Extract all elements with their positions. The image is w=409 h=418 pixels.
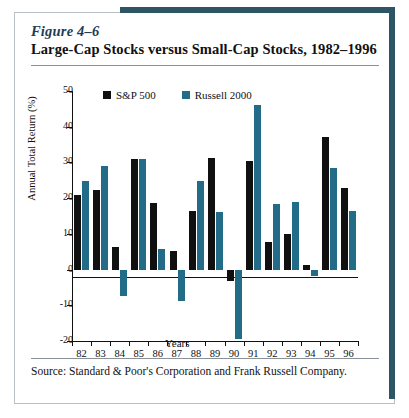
bar-s-p-500-88 xyxy=(189,211,196,270)
bar-s-p-500-95 xyxy=(322,137,329,269)
legend-item-sp500: S&P 500 xyxy=(103,89,156,101)
x-tick-mark xyxy=(110,341,111,346)
accent-bar-top xyxy=(120,7,395,13)
figure-card: Figure 4–6 Large-Cap Stocks versus Small… xyxy=(14,12,395,404)
bar-s-p-500-82 xyxy=(74,195,81,270)
bar-s-p-500-89 xyxy=(208,158,215,269)
x-tick-mark xyxy=(301,341,302,346)
x-tick-mark xyxy=(225,341,226,346)
bar-s-p-500-85 xyxy=(131,159,138,270)
bar-s-p-500-83 xyxy=(93,190,100,270)
bar-russell-2000-95 xyxy=(330,168,337,269)
bar-s-p-500-87 xyxy=(170,251,177,270)
y-tick-label: -10 xyxy=(47,298,73,309)
source-note: Source: Standard & Poor's Corporation an… xyxy=(31,365,347,377)
y-tick-label: 40 xyxy=(47,120,73,131)
accent-bar-right xyxy=(389,7,395,399)
bar-russell-2000-96 xyxy=(349,211,356,270)
bar-s-p-500-93 xyxy=(284,234,291,270)
x-tick-mark xyxy=(91,341,92,346)
x-axis-line xyxy=(72,341,358,342)
y-tick-row: 10 xyxy=(15,234,73,235)
x-tick-mark xyxy=(339,341,340,346)
bar-russell-2000-94 xyxy=(311,270,318,276)
y-tick-row: 50 xyxy=(15,91,73,92)
bar-s-p-500-91 xyxy=(246,161,253,270)
y-tick-label: 30 xyxy=(47,155,73,166)
bar-russell-2000-93 xyxy=(292,202,299,270)
bar-russell-2000-92 xyxy=(273,204,280,270)
x-tick-mark xyxy=(72,341,73,346)
bar-russell-2000-90 xyxy=(235,270,242,340)
y-tick-row: 20 xyxy=(15,198,73,199)
bar-russell-2000-88 xyxy=(197,181,204,270)
bar-russell-2000-91 xyxy=(254,105,261,269)
x-tick-mark xyxy=(320,341,321,346)
bar-russell-2000-84 xyxy=(120,270,127,296)
x-tick-mark xyxy=(282,341,283,346)
bar-s-p-500-84 xyxy=(112,247,119,270)
y-tick-label: 0 xyxy=(47,263,73,274)
x-tick-mark xyxy=(263,341,264,346)
legend-swatch-icon-sp500 xyxy=(103,91,111,99)
bar-russell-2000-87 xyxy=(178,270,185,301)
x-tick-mark xyxy=(244,341,245,346)
x-tick-mark xyxy=(129,341,130,346)
bar-russell-2000-89 xyxy=(216,212,223,270)
y-tick-label: -20 xyxy=(47,334,73,345)
legend-swatch-icon-russell2000 xyxy=(182,91,190,99)
y-tick-row: 0 xyxy=(15,270,73,271)
bar-s-p-500-86 xyxy=(150,203,157,269)
y-tick-row: 40 xyxy=(15,127,73,128)
y-tick-row: -20 xyxy=(15,341,73,342)
x-axis-label: Years xyxy=(165,337,190,349)
bar-russell-2000-83 xyxy=(101,166,108,270)
bar-chart: Annual Total Return (%) 50403020100-10-2… xyxy=(15,13,396,405)
bar-s-p-500-92 xyxy=(265,242,272,270)
bar-russell-2000-86 xyxy=(158,249,165,269)
y-tick-label: 10 xyxy=(47,227,73,238)
y-tick-row: -10 xyxy=(15,305,73,306)
chart-legend: S&P 500 Russell 2000 xyxy=(103,89,252,101)
legend-item-russell2000: Russell 2000 xyxy=(182,89,252,101)
y-tick-label: 50 xyxy=(47,84,73,95)
y-axis-label: Annual Total Return (%) xyxy=(26,59,37,239)
zero-baseline xyxy=(72,277,358,278)
x-tick-mark xyxy=(148,341,149,346)
y-tick-row: 30 xyxy=(15,162,73,163)
bar-russell-2000-82 xyxy=(82,181,89,270)
legend-label-sp500: S&P 500 xyxy=(116,89,156,101)
bar-s-p-500-96 xyxy=(341,188,348,269)
bar-s-p-500-94 xyxy=(303,265,310,270)
x-tick-mark xyxy=(205,341,206,346)
legend-label-russell2000: Russell 2000 xyxy=(195,89,252,101)
bar-s-p-500-90 xyxy=(227,270,234,281)
x-tick-mark xyxy=(358,341,359,346)
y-tick-label: 20 xyxy=(47,191,73,202)
source-divider xyxy=(31,358,379,359)
bar-russell-2000-85 xyxy=(139,159,146,270)
